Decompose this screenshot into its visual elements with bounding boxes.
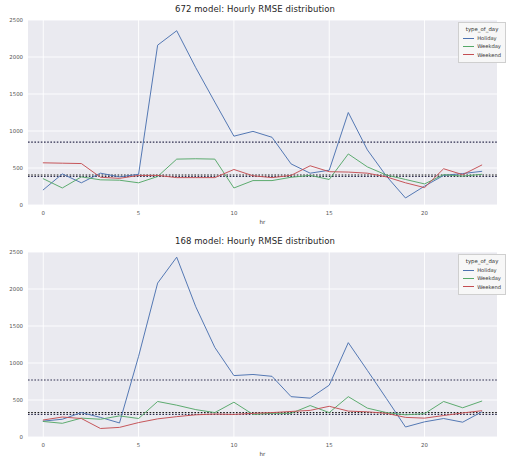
x-tick-label: 0: [42, 442, 46, 448]
y-tick-label: 1500: [9, 91, 23, 97]
legend-item-weekday[interactable]: Weekday: [463, 42, 501, 50]
legend-title: type_of_day: [463, 257, 501, 265]
plot-background: [28, 20, 497, 205]
plot-background: [28, 252, 497, 437]
y-tick-label: 1000: [9, 360, 23, 366]
legend-label-weekend: Weekend: [477, 283, 501, 291]
x-tick-label: 10: [230, 210, 237, 216]
x-tick-label: 10: [230, 442, 237, 448]
y-tick-label: 500: [13, 165, 24, 171]
x-tick-label: 5: [137, 442, 140, 448]
legend-swatch-weekend: [463, 54, 474, 55]
x-tick-label: 20: [421, 210, 428, 216]
legend-title: type_of_day: [463, 25, 501, 33]
x-tick-label: 15: [326, 442, 333, 448]
plot-area-672: 0500100015002000250005101520hr: [0, 0, 510, 232]
legend-item-weekend[interactable]: Weekend: [463, 283, 501, 291]
y-tick-label: 0: [20, 434, 24, 440]
chart-panel-168: 168 model: Hourly RMSE distribution 0500…: [0, 232, 510, 464]
y-tick-label: 2000: [9, 286, 23, 292]
y-tick-label: 2500: [9, 249, 23, 255]
legend-label-holiday: Holiday: [477, 34, 497, 42]
legend-168: type_of_day Holiday Weekday Weekend: [458, 254, 506, 295]
x-tick-label: 0: [42, 210, 46, 216]
y-tick-label: 2000: [9, 54, 23, 60]
x-axis-label: hr: [260, 219, 267, 225]
legend-swatch-weekday: [463, 46, 474, 47]
y-tick-label: 1500: [9, 323, 23, 329]
y-tick-label: 0: [20, 202, 24, 208]
x-axis-label: hr: [260, 451, 267, 457]
legend-swatch-weekend: [463, 286, 474, 287]
legend-label-weekday: Weekday: [477, 42, 501, 50]
legend-swatch-holiday: [463, 270, 474, 271]
x-tick-label: 15: [326, 210, 333, 216]
x-tick-label: 20: [421, 442, 428, 448]
legend-swatch-weekday: [463, 278, 474, 279]
legend-item-weekday[interactable]: Weekday: [463, 274, 501, 282]
chart-panel-672: 672 model: Hourly RMSE distribution 0500…: [0, 0, 510, 232]
legend-672: type_of_day Holiday Weekday Weekend: [458, 22, 506, 63]
plot-area-168: 0500100015002000250005101520hr: [0, 232, 510, 464]
legend-label-holiday: Holiday: [477, 266, 497, 274]
legend-swatch-holiday: [463, 38, 474, 39]
y-tick-label: 1000: [9, 128, 23, 134]
legend-item-holiday[interactable]: Holiday: [463, 34, 501, 42]
legend-label-weekday: Weekday: [477, 274, 501, 282]
legend-item-weekend[interactable]: Weekend: [463, 51, 501, 59]
figure-container: 672 model: Hourly RMSE distribution 0500…: [0, 0, 510, 464]
legend-label-weekend: Weekend: [477, 51, 501, 59]
y-tick-label: 2500: [9, 17, 23, 23]
y-tick-label: 500: [13, 397, 24, 403]
x-tick-label: 5: [137, 210, 140, 216]
legend-item-holiday[interactable]: Holiday: [463, 266, 501, 274]
